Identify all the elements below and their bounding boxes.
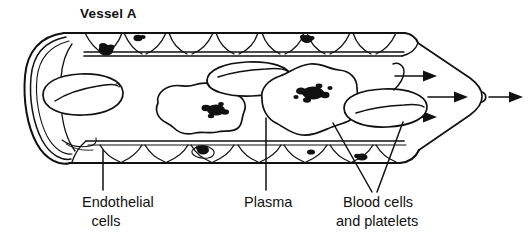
figure-canvas: Vessel A xyxy=(0,0,529,239)
label-blood-cells-line2: and platelets xyxy=(336,213,418,229)
bottom-wall xyxy=(70,141,419,163)
red-blood-cell xyxy=(344,89,427,127)
top-endothelial-nucleus xyxy=(134,35,146,41)
top-cell-edge xyxy=(353,33,371,54)
bottom-cell-edge xyxy=(238,145,258,162)
top-cell-edge xyxy=(262,33,280,54)
vessel-diagram: Vessel A xyxy=(0,0,529,239)
bottom-endothelial-nucleus xyxy=(307,149,315,154)
taper-upper-edge xyxy=(418,43,482,96)
label-plasma: Plasma xyxy=(244,194,293,210)
label-endothelial-cells-line1: Endothelial xyxy=(82,194,154,210)
bottom-cell-edge xyxy=(167,145,188,162)
label-blood-cells-line1: Blood cells xyxy=(343,194,413,210)
top-cell-edge xyxy=(192,33,213,54)
top-endothelial-nucleus xyxy=(300,35,315,43)
bottom-cell-edge xyxy=(260,145,281,162)
bottom-cell-edge xyxy=(122,145,142,162)
top-cell-edge xyxy=(239,33,258,54)
bottom-wall-left-join xyxy=(72,141,86,162)
vessel-opening-rim-top xyxy=(61,44,72,78)
top-cell-edge xyxy=(216,33,234,54)
top-cell-edge xyxy=(330,33,350,54)
top-cell-edge xyxy=(146,33,166,54)
top-wall xyxy=(64,33,418,56)
bottom-cell-edge xyxy=(213,145,234,162)
label-endothelial-cells-line2: cells xyxy=(91,213,120,229)
top-cell-edge xyxy=(376,33,396,54)
bottom-endothelial-cell-boundaries xyxy=(100,145,396,162)
top-wall-front-face-right xyxy=(402,43,418,56)
top-endothelial-cell-boundaries xyxy=(85,33,396,54)
taper-lower-edge xyxy=(419,97,482,150)
figure-title: Vessel A xyxy=(80,6,137,21)
leader-blood-cells-right xyxy=(377,122,403,192)
red-blood-cell xyxy=(43,74,123,115)
flow-arrow-exit xyxy=(489,92,523,103)
top-cell-edge xyxy=(169,33,187,54)
top-endothelial-nucleus xyxy=(99,43,115,56)
flow-arrow-middle xyxy=(428,92,468,103)
bottom-cell-edge xyxy=(145,145,165,162)
bottom-cell-edge xyxy=(284,145,304,162)
blood-cells-group xyxy=(43,62,427,135)
top-wall-outer-edge xyxy=(64,33,418,43)
